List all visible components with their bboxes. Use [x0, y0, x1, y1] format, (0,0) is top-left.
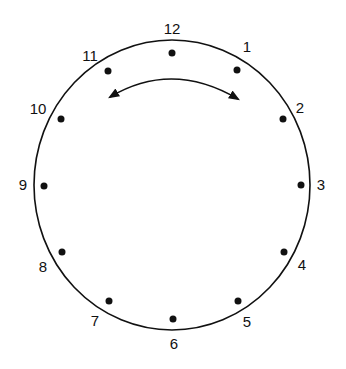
hour-5: 5: [243, 313, 251, 330]
hour-12: 12: [164, 20, 181, 37]
hour-numbers: 12 1 2 3 4 5 6 7 8 9 10 11: [19, 20, 325, 352]
hour-dots: [41, 50, 305, 323]
hour-7: 7: [91, 312, 99, 329]
clock-circle: [34, 40, 310, 330]
hour-3: 3: [317, 176, 325, 193]
hour-1: 1: [243, 38, 251, 55]
clock-diagram: 12 1 2 3 4 5 6 7 8 9 10 11: [0, 0, 346, 369]
hour-8: 8: [39, 258, 47, 275]
hour-4: 4: [298, 256, 306, 273]
hour-11: 11: [82, 47, 98, 64]
hour-10: 10: [30, 100, 47, 117]
hour-9: 9: [19, 176, 27, 193]
hour-2: 2: [296, 99, 304, 116]
double-arrow-arc: [110, 79, 238, 99]
hour-6: 6: [170, 335, 178, 352]
